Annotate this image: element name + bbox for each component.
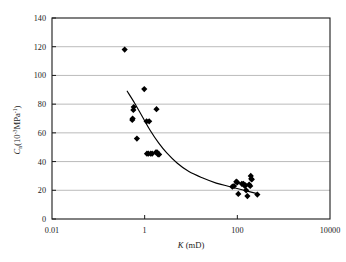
plot-frame — [52, 18, 330, 219]
y-tick-label: 120 — [34, 43, 46, 52]
y-tick-label: 20 — [38, 186, 46, 195]
y-tick-label: 0 — [42, 215, 46, 224]
x-axis-title-units: (mD) — [183, 240, 204, 250]
svg-text:Cn(10-3MPa-1): Cn(10-3MPa-1) — [12, 105, 23, 154]
data-points — [122, 46, 261, 199]
x-tick-label: 100 — [231, 226, 243, 235]
x-tick-label: 1 — [143, 226, 147, 235]
y-tick-label: 80 — [38, 100, 46, 109]
x-axis-ticks — [145, 215, 238, 219]
trend-curve — [127, 91, 258, 194]
scatter-plot: 020406080100120140 0.01110010000 K (mD) … — [0, 0, 346, 262]
data-point-marker — [254, 191, 260, 197]
x-axis-title: K (mD) — [177, 240, 205, 250]
data-point-marker — [141, 86, 147, 92]
data-point-marker — [153, 106, 159, 112]
data-point-marker — [244, 193, 250, 199]
gridlines — [52, 47, 330, 191]
data-point-marker — [235, 191, 241, 197]
y-axis-ticks — [52, 18, 56, 219]
y-tick-label: 140 — [34, 14, 46, 23]
y-axis-title: Cn(10-3MPa-1) — [12, 105, 23, 154]
x-axis-tick-labels: 0.01110010000 — [45, 226, 340, 235]
svg-text:K (mD): K (mD) — [177, 240, 205, 250]
y-tick-label: 100 — [34, 71, 46, 80]
x-tick-label: 10000 — [320, 226, 340, 235]
y-axis-title-units-close: ) — [12, 105, 22, 108]
y-tick-label: 60 — [38, 129, 46, 138]
data-point-marker — [134, 136, 140, 142]
x-tick-label: 0.01 — [45, 226, 59, 235]
chart-figure: 020406080100120140 0.01110010000 K (mD) … — [0, 0, 346, 262]
y-axis-title-units-open: (10 — [12, 134, 22, 145]
y-axis-tick-labels: 020406080100120140 — [34, 14, 46, 224]
y-tick-label: 40 — [38, 158, 46, 167]
data-point-marker — [122, 46, 128, 52]
y-axis-title-units-mid: MPa — [12, 113, 22, 129]
